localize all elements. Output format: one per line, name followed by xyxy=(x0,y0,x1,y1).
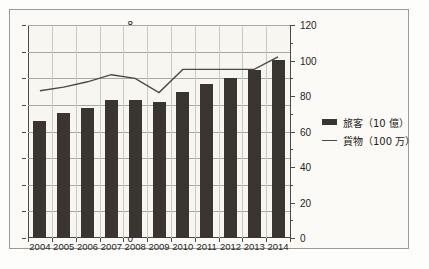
category-separator xyxy=(123,25,124,238)
category-separator xyxy=(242,25,243,238)
bar-2012 xyxy=(224,78,237,238)
chart-legend: 旅客（10 億） 貨物（100 万） xyxy=(322,113,422,149)
right-axis-tickmark xyxy=(290,61,295,62)
legend-item-freight: 貨物（100 万） xyxy=(322,131,422,149)
left-axis-tickmark xyxy=(22,158,26,159)
left-axis-tickmark xyxy=(22,185,26,186)
left-axis-tickmark xyxy=(22,105,26,106)
bar-2010 xyxy=(176,92,189,238)
category-separator xyxy=(52,25,53,238)
right-axis-tickmark xyxy=(290,132,295,133)
gridline xyxy=(28,52,290,53)
bar-2013 xyxy=(248,70,261,238)
right-axis-tick-label: 80 xyxy=(300,92,330,102)
bar-2008 xyxy=(129,100,142,238)
right-axis-tickmark xyxy=(290,96,295,97)
right-axis-tickmark-minor xyxy=(290,185,293,186)
right-axis-tickmark xyxy=(290,167,295,168)
category-separator xyxy=(147,25,148,238)
category-separator xyxy=(171,25,172,238)
left-axis-tickmark xyxy=(22,238,26,239)
line-swatch-icon xyxy=(322,140,337,141)
x-axis-label-2014: 2014 xyxy=(263,242,293,252)
left-axis-tickmark xyxy=(22,52,26,53)
bar-2009 xyxy=(153,102,166,238)
bar-swatch-icon xyxy=(322,119,337,125)
legend-label-freight: 貨物（100 万） xyxy=(343,133,415,148)
bar-2004 xyxy=(33,121,46,238)
right-axis-tickmark-minor xyxy=(290,114,293,115)
category-separator xyxy=(219,25,220,238)
bar-2014 xyxy=(272,60,285,238)
bar-2006 xyxy=(81,108,94,238)
left-axis-tickmark xyxy=(22,78,26,79)
left-axis-tickmark xyxy=(22,25,26,26)
right-axis-tick-label: 40 xyxy=(300,163,330,173)
category-separator xyxy=(100,25,101,238)
figure: 8 7 6 5 4 3 2 1 0 120 100 80 60 40 20 0 xyxy=(0,0,429,269)
right-axis-tick-label: 20 xyxy=(300,199,330,209)
legend-item-passengers: 旅客（10 億） xyxy=(322,113,422,131)
bar-2005 xyxy=(57,113,70,238)
right-axis-tickmark xyxy=(290,25,295,26)
right-axis-tick-label: 120 xyxy=(300,21,330,31)
left-axis-tickmark xyxy=(22,211,26,212)
bar-2007 xyxy=(105,100,118,238)
category-separator xyxy=(195,25,196,238)
category-separator xyxy=(76,25,77,238)
gridline xyxy=(28,25,290,26)
category-separator xyxy=(266,25,267,238)
right-axis-tick-label: 0 xyxy=(300,234,330,244)
right-axis-tickmark-minor xyxy=(290,149,293,150)
right-axis-tick-label: 100 xyxy=(300,57,330,67)
plot-area xyxy=(28,25,290,238)
right-axis-tickmark xyxy=(290,203,295,204)
right-axis-tickmark-minor xyxy=(290,220,293,221)
legend-label-passengers: 旅客（10 億） xyxy=(343,115,409,130)
right-axis-tickmark-minor xyxy=(290,78,293,79)
bar-2011 xyxy=(200,84,213,238)
left-axis-tickmark xyxy=(22,132,26,133)
right-axis-tickmark-minor xyxy=(290,43,293,44)
figure-caption xyxy=(0,256,429,269)
